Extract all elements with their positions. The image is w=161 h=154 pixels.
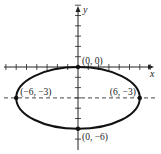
ellipse-diagram: x y (0, 0)(−6, −3)(6, −3)(0, −6) (0, 0, 161, 154)
point-label: (−6, −3) (20, 87, 51, 98)
point-marker (76, 65, 80, 69)
point-marker (138, 96, 142, 100)
y-axis-label: y (82, 4, 88, 15)
point-marker (14, 96, 18, 100)
point-label: (6, −3) (110, 87, 136, 98)
point-marker (76, 127, 80, 131)
point-label: (0, 0) (82, 56, 103, 67)
point-label: (0, −6) (82, 132, 108, 143)
x-axis-label: x (149, 68, 155, 79)
y-axis-arrow-icon (76, 6, 81, 12)
